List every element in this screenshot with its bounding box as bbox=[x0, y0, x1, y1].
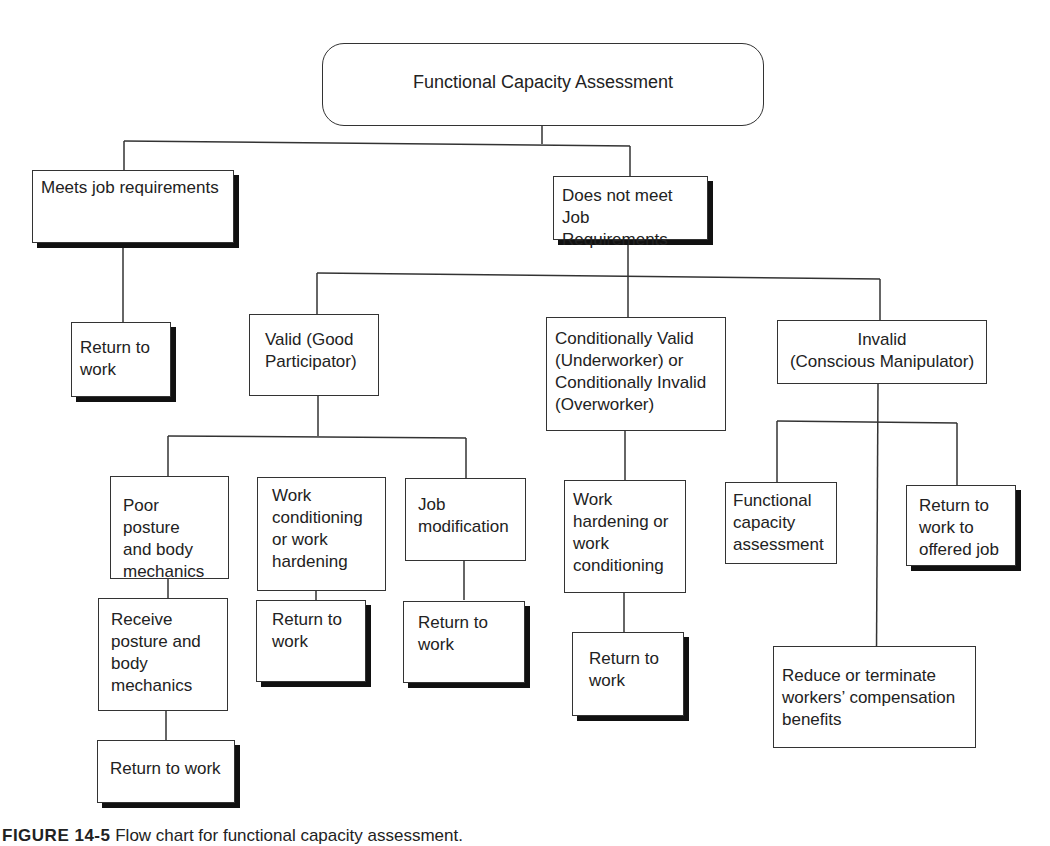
node-posture-return-to-work: Return to work bbox=[97, 740, 235, 803]
node-label: Conditionally Valid (Underworker) or Con… bbox=[555, 328, 717, 416]
node-poor-posture: Poor posture and body mechanics bbox=[110, 476, 229, 579]
node-job-modification: Job modification bbox=[405, 478, 526, 561]
node-label: Valid (Good Participator) bbox=[265, 329, 370, 373]
node-label: Return to work bbox=[80, 337, 162, 381]
node-meets-return-to-work: Return to work bbox=[71, 322, 171, 397]
node-label: Return to work to offered job bbox=[919, 495, 1007, 561]
node-return-to-offered-job: Return to work to offered job bbox=[906, 485, 1016, 566]
node-conditioning-return-to-work: Return to work bbox=[256, 600, 366, 682]
node-does-not-meet: Does not meet Job Requirements bbox=[553, 176, 708, 240]
figure-caption: FIGURE 14-5 Flow chart for functional ca… bbox=[2, 826, 463, 846]
node-invalid: Invalid (Conscious Manipulator) bbox=[777, 320, 987, 384]
node-receive-posture: Receive posture and body mechanics bbox=[98, 598, 228, 711]
node-label: Work conditioning or work hardening bbox=[272, 485, 377, 573]
node-label: Poor posture and body mechanics bbox=[123, 495, 220, 583]
node-label: Return to work bbox=[418, 612, 516, 656]
figure-label: FIGURE 14-5 bbox=[2, 826, 110, 845]
node-conditional: Conditionally Valid (Underworker) or Con… bbox=[546, 317, 726, 431]
root-label: Functional Capacity Assessment bbox=[331, 71, 755, 93]
node-label: Return to work bbox=[589, 648, 675, 692]
node-valid: Valid (Good Participator) bbox=[249, 314, 379, 396]
node-label: Work hardening or work conditioning bbox=[573, 489, 677, 577]
node-label: Return to work bbox=[110, 758, 226, 780]
node-label: Job modification bbox=[418, 494, 517, 538]
node-functional-capacity-assessment: Functional capacity assessment bbox=[725, 482, 837, 564]
node-hardening-return-to-work: Return to work bbox=[572, 632, 684, 716]
node-label: Functional capacity assessment bbox=[733, 490, 828, 556]
node-label: Reduce or terminate workers’ compensatio… bbox=[782, 665, 967, 731]
node-label: Receive posture and body mechanics bbox=[111, 609, 219, 697]
node-job-mod-return-to-work: Return to work bbox=[403, 601, 525, 683]
figure-caption-text: Flow chart for functional capacity asses… bbox=[115, 826, 463, 845]
node-label: Invalid (Conscious Manipulator) bbox=[786, 329, 978, 373]
node-work-hardening: Work hardening or work conditioning bbox=[564, 480, 686, 593]
node-label: Meets job requirements bbox=[41, 177, 225, 199]
node-label: Return to work bbox=[272, 609, 357, 653]
node-reduce-benefits: Reduce or terminate workers’ compensatio… bbox=[773, 646, 976, 748]
node-work-conditioning: Work conditioning or work hardening bbox=[257, 477, 386, 591]
root-node: Functional Capacity Assessment bbox=[322, 43, 764, 126]
node-label: Does not meet Job Requirements bbox=[562, 185, 699, 251]
node-meets-job-requirements: Meets job requirements bbox=[32, 170, 234, 243]
